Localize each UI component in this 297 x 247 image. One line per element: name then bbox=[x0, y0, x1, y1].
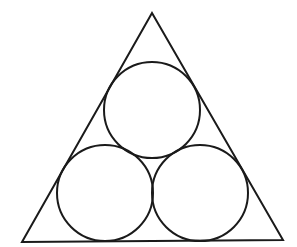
circle-bottom-left bbox=[57, 145, 153, 241]
triangle bbox=[22, 13, 283, 242]
triangle-circles-diagram bbox=[0, 0, 297, 247]
circle-bottom-right bbox=[152, 145, 248, 241]
diagram-figure bbox=[0, 0, 297, 247]
circle-top bbox=[104, 62, 200, 158]
